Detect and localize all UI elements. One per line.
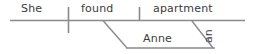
word-article-modifier: an — [203, 29, 215, 43]
word-subject: She — [21, 3, 42, 15]
word-verb: found — [81, 3, 114, 15]
word-direct-object: apartment — [153, 3, 213, 15]
indirect-object-slant — [103, 21, 127, 49]
sentence-diagram: She found apartment Anne an — [0, 0, 255, 54]
word-indirect-object: Anne — [143, 33, 172, 45]
